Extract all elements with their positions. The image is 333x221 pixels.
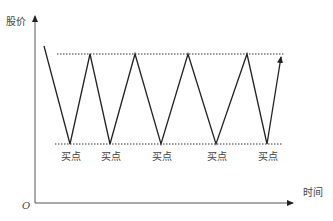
- x-axis-label: 时间: [303, 186, 323, 198]
- buy-point-label: 买点: [207, 151, 227, 162]
- buy-point-label: 买点: [258, 151, 278, 162]
- origin-label: O: [22, 200, 30, 211]
- buy-point-label: 买点: [61, 151, 81, 162]
- buy-point-label: 买点: [101, 151, 121, 162]
- price-path: [44, 46, 281, 144]
- buy-point-label: 买点: [152, 151, 172, 162]
- box-range-diagram: 股价 时间 O 买点 买点 买点 买点 买点: [0, 0, 333, 221]
- y-axis-label: 股价: [6, 16, 26, 27]
